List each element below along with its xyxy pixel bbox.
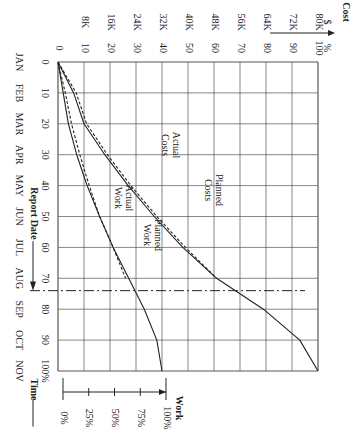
- work-tick: 75%: [136, 409, 147, 427]
- planned-costs-label: Costs: [203, 179, 214, 201]
- work-tick: 50%: [110, 409, 121, 427]
- work-tick: 100%: [162, 406, 173, 429]
- cost-percent-tick: 90: [288, 43, 299, 53]
- axis-labels: 01020304050607080901008K16K24K32K40K48K5…: [14, 2, 352, 429]
- time-percent-tick: 80: [40, 304, 51, 314]
- report-date-label: Report Date: [29, 187, 40, 240]
- report-date-arrowhead: [30, 281, 36, 290]
- cost-arrowhead: [328, 30, 335, 36]
- actual-costs-label: Costs: [160, 134, 171, 156]
- actual-work-label: Actual: [124, 185, 135, 212]
- chart-canvas: 01020304050607080901008K16K24K32K40K48K5…: [0, 0, 361, 439]
- actual-work-curve: [58, 62, 126, 278]
- planned-work-label: Planned: [153, 219, 164, 251]
- cost-percent-tick: 20: [106, 43, 117, 53]
- cost-dollar-symbol: $: [322, 20, 333, 25]
- cost-percent-tick: 0: [54, 46, 65, 51]
- cost-percent-tick: 40: [158, 43, 169, 53]
- cost-dollar-tick: 16K: [106, 13, 117, 31]
- cost-dollar-tick: 48K: [210, 13, 221, 31]
- month-label: FEB: [14, 84, 25, 103]
- cost-dollar-tick: 72K: [288, 13, 299, 31]
- time-percent-tick: 50: [40, 212, 51, 222]
- cost-percent-tick: 50: [184, 43, 195, 53]
- time-percent-tick: 40: [40, 181, 51, 191]
- cost-percent-tick: 10: [80, 43, 91, 53]
- month-label: MAY: [14, 174, 25, 196]
- work-tick: 0%: [59, 411, 70, 424]
- month-label: SEP: [14, 301, 25, 319]
- month-label: APR: [14, 145, 25, 165]
- cost-dollar-tick: 56K: [236, 13, 247, 31]
- month-label: JAN: [14, 53, 25, 71]
- time-percent-tick: 100%: [40, 359, 51, 382]
- time-percent-tick: 60: [40, 242, 51, 252]
- time-percent-tick: 10: [40, 88, 51, 98]
- planned-costs-label: Planned: [214, 174, 225, 206]
- cost-dollar-tick: 32K: [158, 13, 169, 31]
- time-percent-tick: 70: [40, 273, 51, 283]
- work-axis-title: Work: [174, 396, 185, 421]
- cost-percent-symbol: %: [322, 44, 333, 52]
- cost-axis-title: Cost: [341, 2, 352, 22]
- cost-percent-tick: 80: [262, 43, 273, 53]
- cost-dollar-tick: 64K: [262, 13, 273, 31]
- cost-percent-tick: 60: [210, 43, 221, 53]
- time-percent-tick: 30: [40, 150, 51, 160]
- month-label: MAR: [14, 112, 25, 135]
- time-percent-tick: 0: [40, 60, 51, 65]
- time-percent-tick: 20: [40, 119, 51, 129]
- cost-dollar-tick: 8K: [80, 16, 91, 29]
- month-label: OCT: [14, 330, 25, 350]
- work-tick: 25%: [84, 409, 95, 427]
- month-label: JUN: [14, 207, 25, 225]
- grid: [58, 62, 318, 371]
- actual-costs-label: Actual: [171, 132, 182, 159]
- time-axis-title: Time: [29, 379, 40, 402]
- work-arrowhead: [159, 389, 166, 395]
- month-label: AUG: [14, 267, 25, 289]
- time-percent-tick: 90: [40, 335, 51, 345]
- cost-dollar-tick: 40K: [184, 13, 195, 31]
- cost-dollar-tick: 24K: [132, 13, 143, 31]
- cost-percent-tick: 30: [132, 43, 143, 53]
- planned-work-label: Work: [142, 224, 153, 246]
- month-label: JUL: [14, 239, 25, 256]
- cost-percent-tick: 70: [236, 43, 247, 53]
- month-label: NOV: [14, 360, 25, 382]
- actual-work-label: Work: [113, 187, 124, 209]
